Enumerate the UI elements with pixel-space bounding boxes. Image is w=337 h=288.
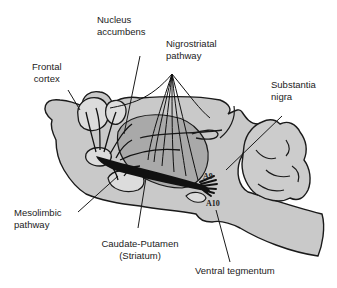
label-a9: A9 — [203, 172, 213, 181]
label-nucleus-accumbens: Nucleus accumbens — [97, 14, 146, 38]
label-caudate-putamen: Caudate-Putamen (Striatum) — [100, 238, 180, 262]
label-mesolimbic-pathway: Mesolimbic pathway — [14, 207, 62, 231]
label-ventral-tegmentum: Ventral tegmentum — [195, 265, 275, 277]
label-substantia-nigra: Substantia nigra — [271, 79, 316, 103]
frontal-lobe-1 — [78, 98, 109, 131]
label-a10: A10 — [206, 199, 220, 208]
label-nigrostriatal-pathway: Nigrostriatal pathway — [166, 38, 217, 62]
label-frontal-cortex: Frontal cortex — [32, 61, 62, 85]
cerebellum-outline — [242, 120, 310, 201]
